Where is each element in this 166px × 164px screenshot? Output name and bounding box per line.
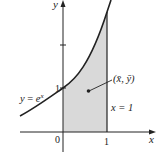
y-axis-arrow-icon: [61, 0, 66, 7]
origin-label: 0: [55, 134, 60, 145]
centroid-diagram: y x 0 1 1 y = ex x = 1 (x̄, ȳ): [0, 0, 166, 164]
curve-equation-label: y = ex: [19, 92, 45, 104]
curve-eq-exponent: x: [40, 92, 45, 100]
centroid-dot-icon: [87, 89, 91, 93]
line-equation-label: x = 1: [110, 102, 133, 113]
x-tick-1-label: 1: [104, 136, 109, 147]
curve-eq-equals: =: [25, 93, 36, 104]
x-axis-label: x: [148, 133, 154, 145]
plot-canvas: y x 0 1 1 y = ex x = 1 (x̄, ȳ): [0, 0, 166, 164]
y-tick-1-label: 1: [55, 83, 60, 94]
centroid-label: (x̄, ȳ): [113, 73, 135, 85]
y-axis-label: y: [52, 0, 58, 10]
